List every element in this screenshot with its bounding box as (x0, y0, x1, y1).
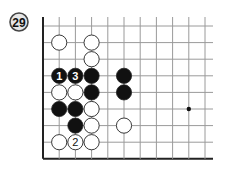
white-stone-icon (116, 118, 131, 133)
black-stone-icon (84, 85, 99, 100)
white-stone-icon (84, 118, 99, 133)
black-stone (116, 68, 131, 83)
black-stone (68, 118, 83, 133)
white-stone (84, 35, 99, 50)
star-point-icon (187, 107, 191, 111)
go-board-diagram: 29 132 (0, 0, 228, 169)
problem-number-badge: 29 (10, 13, 28, 31)
black-stone (84, 68, 99, 83)
white-stone (84, 101, 99, 116)
white-stone (84, 118, 99, 133)
white-stone (84, 135, 99, 150)
white-stone-icon (52, 135, 67, 150)
white-stone (52, 85, 67, 100)
black-stone-icon (116, 68, 131, 83)
black-stone (116, 85, 131, 100)
move-number-label: 1 (56, 70, 62, 82)
white-stone-icon (84, 35, 99, 50)
problem-number: 29 (12, 16, 26, 30)
star-points (187, 107, 191, 111)
black-stone-icon (68, 101, 83, 116)
black-stone (52, 101, 67, 116)
white-stone-icon (84, 52, 99, 67)
black-stone (84, 85, 99, 100)
black-stone-icon (116, 85, 131, 100)
black-stone-icon (84, 68, 99, 83)
stones-layer: 132 (52, 35, 132, 150)
black-stone-icon (52, 101, 67, 116)
white-stone (84, 52, 99, 67)
white-stone-icon (52, 35, 67, 50)
white-stone-icon (84, 135, 99, 150)
white-stone (68, 85, 83, 100)
move-number-label: 3 (72, 70, 78, 82)
move-number-label: 2 (72, 136, 78, 148)
white-stone-icon (52, 85, 67, 100)
black-stone (68, 101, 83, 116)
white-stone: 2 (68, 135, 83, 150)
white-stone (116, 118, 131, 133)
white-stone (52, 35, 67, 50)
white-stone (52, 135, 67, 150)
white-stone-icon (84, 101, 99, 116)
white-stone-icon (68, 85, 83, 100)
black-stone: 1 (52, 68, 67, 83)
black-stone: 3 (68, 68, 83, 83)
black-stone-icon (68, 118, 83, 133)
